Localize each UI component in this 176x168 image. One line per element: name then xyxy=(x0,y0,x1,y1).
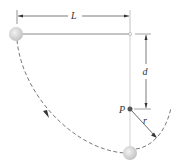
ball-start xyxy=(9,27,23,41)
swing-path xyxy=(17,40,125,153)
peg-label: P xyxy=(118,104,125,115)
ball-bottom xyxy=(123,146,137,160)
radius-indicator: r xyxy=(131,110,157,138)
length-label: L xyxy=(70,10,77,21)
distance-label: d xyxy=(143,66,149,77)
distance-dimension: d xyxy=(134,34,151,109)
direction-arrow-icon xyxy=(43,110,49,118)
pendulum-diagram: L d r P xyxy=(0,0,176,168)
small-arc-path xyxy=(136,108,171,149)
peg-point xyxy=(128,107,133,112)
radius-label: r xyxy=(143,115,147,126)
length-dimension: L xyxy=(17,10,130,32)
